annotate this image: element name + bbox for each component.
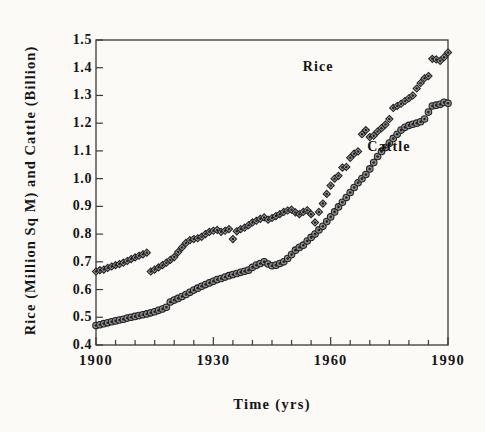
chart-figure: Rice (Million Sq M) and Cattle (Billion)… <box>0 0 485 432</box>
series-points-rice <box>92 49 451 275</box>
series-label-rice: Rice <box>303 59 334 75</box>
x-tick-label: 1990 <box>403 352 485 369</box>
x-tick-label: 1900 <box>51 352 141 369</box>
x-tick-label: 1930 <box>168 352 258 369</box>
x-axis-label: Time (yrs) <box>96 396 448 413</box>
x-tick-label: 1960 <box>286 352 376 369</box>
series-label-cattle: Cattle <box>367 139 410 155</box>
